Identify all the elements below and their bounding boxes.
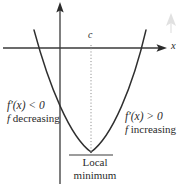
calculus-figure: c x f′(x) < 0 f decreasing f′(x) > 0 f i… bbox=[0, 0, 184, 184]
left-monotonicity: f decreasing bbox=[7, 112, 60, 124]
critical-point-label: c bbox=[88, 29, 92, 40]
left-monotonicity-word: decreasing bbox=[10, 112, 60, 124]
right-monotonicity: f increasing bbox=[125, 123, 176, 135]
x-axis-label: x bbox=[171, 40, 176, 52]
vertex-point bbox=[90, 151, 92, 153]
right-derivative-sign: f′(x) > 0 bbox=[125, 110, 176, 123]
local-minimum-caption: Local minimum bbox=[52, 156, 138, 182]
left-region-annotation: f′(x) < 0 f decreasing bbox=[7, 99, 60, 124]
right-region-annotation: f′(x) > 0 f increasing bbox=[125, 110, 176, 135]
caption-line-1: Local bbox=[52, 156, 138, 169]
left-derivative-sign: f′(x) < 0 bbox=[7, 99, 60, 112]
caption-line-2: minimum bbox=[52, 169, 138, 182]
cropped-artifact-icon bbox=[166, 13, 176, 33]
right-monotonicity-word: increasing bbox=[128, 123, 176, 135]
